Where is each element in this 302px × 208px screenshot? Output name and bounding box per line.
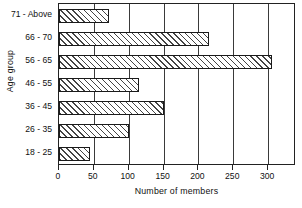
y-tick-label: 66 - 70 — [25, 32, 52, 42]
x-tick-label: 200 — [182, 171, 212, 181]
y-tick-label: 56 - 65 — [25, 55, 52, 65]
bar — [59, 124, 129, 138]
bar-row — [59, 147, 296, 161]
x-tick-mark — [163, 165, 164, 170]
bar-row — [59, 55, 296, 69]
bar-chart: 71 - Above 66 - 70 56 - 65 46 - 55 36 - … — [0, 0, 302, 208]
x-tick-mark — [232, 165, 233, 170]
bar-row — [59, 9, 296, 23]
x-tick-label: 100 — [113, 171, 143, 181]
bar — [59, 78, 139, 92]
x-tick-mark — [93, 165, 94, 170]
x-axis-title: Number of members — [58, 186, 295, 196]
x-tick-label: 150 — [148, 171, 178, 181]
x-tick-mark — [197, 165, 198, 170]
x-tick-label: 50 — [78, 171, 108, 181]
y-axis-title: Age group — [5, 31, 15, 111]
bar — [59, 55, 272, 69]
bar-row — [59, 124, 296, 138]
bar-row — [59, 101, 296, 115]
y-tick-label: 46 - 55 — [25, 78, 52, 88]
y-tick-label: 26 - 35 — [25, 124, 52, 134]
plot-area — [58, 3, 295, 165]
x-tick-mark — [128, 165, 129, 170]
y-tick-label: 36 - 45 — [25, 101, 52, 111]
bar-row — [59, 78, 296, 92]
x-tick-label: 0 — [43, 171, 73, 181]
bar-series — [59, 4, 294, 164]
bar — [59, 32, 209, 46]
bar — [59, 147, 90, 161]
bar — [59, 101, 164, 115]
x-tick-mark — [267, 165, 268, 170]
bar-row — [59, 32, 296, 46]
y-tick-label: 71 - Above — [11, 9, 52, 19]
x-tick-label: 300 — [252, 171, 282, 181]
x-tick-label: 250 — [217, 171, 247, 181]
bar — [59, 9, 109, 23]
y-tick-label: 18 - 25 — [25, 147, 52, 157]
x-tick-mark — [58, 165, 59, 170]
